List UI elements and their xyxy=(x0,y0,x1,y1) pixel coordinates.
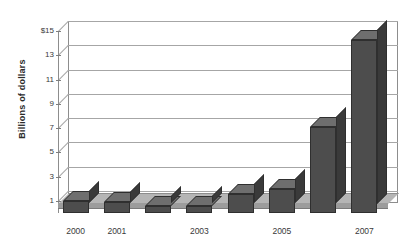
gridline xyxy=(68,94,398,95)
bar-2002 xyxy=(145,196,181,213)
chart-back-wall xyxy=(68,21,398,203)
y-tick-label: 1 xyxy=(28,197,54,205)
y-tick-label: 7 xyxy=(28,124,54,132)
bar-top-face xyxy=(186,196,222,206)
bar-front-face xyxy=(104,202,130,213)
bar-front-face xyxy=(186,206,212,213)
gridline xyxy=(68,70,398,71)
x-tick-label: 2000 xyxy=(56,226,96,236)
y-tick-mark xyxy=(56,80,61,81)
bar-2001 xyxy=(104,192,140,213)
bar-2007 xyxy=(351,30,387,214)
y-tick-label: $15 xyxy=(28,27,54,35)
y-tick-label: 5 xyxy=(28,148,54,156)
bar-side-face xyxy=(377,20,387,204)
y-tick-label: 9 xyxy=(28,100,54,108)
y-tick-mark xyxy=(56,128,61,129)
bar-front-face xyxy=(351,40,377,214)
gridline xyxy=(68,142,398,143)
y-tick-label: 13 xyxy=(28,51,54,59)
gridline xyxy=(68,21,398,22)
bar-front-face xyxy=(228,194,254,213)
y-tick-label: 3 xyxy=(28,173,54,181)
bar-front-face xyxy=(310,127,336,213)
gridline xyxy=(68,118,398,119)
plot-area xyxy=(58,21,398,213)
gridline xyxy=(68,167,398,168)
y-tick-mark xyxy=(56,55,61,56)
bar-front-face xyxy=(63,201,89,213)
x-tick-label: 2005 xyxy=(262,226,302,236)
bar-2006 xyxy=(310,117,346,213)
x-tick-label: 2003 xyxy=(179,226,219,236)
bar-2000 xyxy=(63,191,99,213)
y-tick-mark xyxy=(56,152,61,153)
y-tick-mark xyxy=(56,31,61,32)
y-tick-mark xyxy=(56,201,61,202)
bar-side-face xyxy=(336,107,346,203)
x-tick-label: 2001 xyxy=(97,226,137,236)
gridline xyxy=(68,45,398,46)
y-tick-mark xyxy=(56,177,61,178)
bar-front-face xyxy=(269,189,295,213)
bar-2003 xyxy=(186,196,222,213)
y-axis-title: Billions of dollars xyxy=(17,39,27,159)
bar-2004 xyxy=(228,184,264,213)
y-axis-line xyxy=(58,31,59,213)
y-tick-label: 11 xyxy=(28,76,54,84)
chart-screenshot: Billions of dollars $15131197531 2000200… xyxy=(0,0,417,250)
bar-front-face xyxy=(145,206,171,213)
x-tick-label: 2007 xyxy=(344,226,384,236)
y-tick-mark xyxy=(56,104,61,105)
bar-2005 xyxy=(269,179,305,213)
